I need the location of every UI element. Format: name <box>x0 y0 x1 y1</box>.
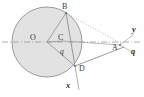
point-label-D: D <box>79 64 85 73</box>
axis-label-y: y <box>131 24 136 34</box>
geometry-figure: O B C D A q y q x <box>0 0 144 97</box>
ray-A-to-y <box>120 34 134 45</box>
geometry-diagram-canvas: O B C D A q y q x <box>0 0 144 97</box>
point-marker-D <box>74 65 76 67</box>
point-label-B: B <box>62 2 67 11</box>
point-marker-B <box>65 12 67 14</box>
axis-label-q: q <box>131 46 136 56</box>
point-label-C: C <box>58 33 63 42</box>
point-marker-A <box>119 44 121 46</box>
point-label-O: O <box>30 33 36 42</box>
axis-label-x: x <box>65 80 71 90</box>
angle-label-q: q <box>60 47 64 56</box>
point-label-A: A <box>112 43 118 52</box>
